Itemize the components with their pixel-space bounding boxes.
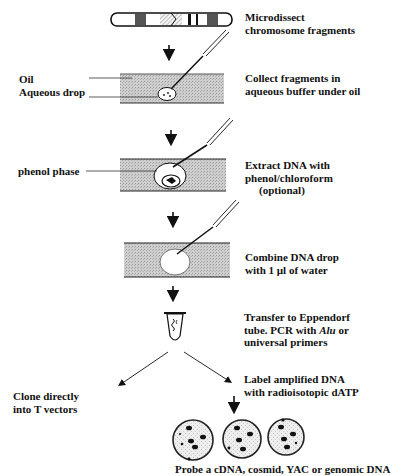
label-line: Combine DNA drop	[245, 251, 339, 264]
oil-label: Oil	[19, 73, 34, 86]
step-probe-label: Probe a cDNA, cosmid, YAC or genomic DNA	[175, 463, 390, 476]
label-line: universal primers	[244, 336, 350, 349]
step-label-label: Label amplified DNA with radioisotopic d…	[244, 373, 359, 398]
aqueous-drop-label: Aqueous drop	[19, 86, 85, 99]
oil-layer-icon	[89, 56, 224, 103]
label-line: Label amplified DNA	[244, 373, 359, 386]
step-collect-label: Collect fragments in aqueous buffer unde…	[245, 72, 360, 97]
label-line: (optional)	[245, 184, 333, 197]
eppendorf-tube-icon	[164, 313, 186, 340]
label-line: Microdissect	[245, 11, 355, 24]
step-combine-label: Combine DNA drop with 1 µl of water	[245, 251, 339, 276]
label-line: aqueous buffer under oil	[245, 85, 360, 98]
phenol-phase-label: phenol phase	[18, 165, 79, 178]
label-line: with 1 µl of water	[245, 264, 339, 277]
step-microdissect-label: Microdissect chromosome fragments	[245, 11, 355, 36]
label-line: Extract DNA with	[245, 159, 333, 172]
petri-plate-icon	[268, 418, 304, 455]
label-line: Collect fragments in	[245, 72, 360, 85]
step-extract-label: Extract DNA with phenol/chloroform (opti…	[245, 159, 333, 197]
step-clone-label: Clone directly into T vectors	[13, 390, 79, 415]
alu-italic-text: Alu	[319, 324, 336, 336]
label-text: or	[336, 324, 349, 336]
label-line: Transfer to Eppendorf	[244, 311, 350, 324]
label-line: into T vectors	[13, 403, 79, 416]
step-transfer-label: Transfer to Eppendorf tube. PCR with Alu…	[244, 311, 350, 349]
petri-plate-icon	[223, 420, 261, 458]
label-line: chromosome fragments	[245, 24, 355, 37]
label-text: tube. PCR with	[244, 324, 319, 336]
branch-arrows	[121, 352, 229, 384]
label-line: with radioisotopic dATP	[244, 386, 359, 399]
chromosome-icon	[111, 13, 232, 26]
pipette-icon	[203, 30, 239, 227]
oil-layer-icon	[124, 227, 230, 277]
label-line: phenol/chloroform	[245, 172, 333, 185]
diagram-canvas: Microdissect chromosome fragments Collec…	[0, 0, 403, 476]
label-line: Clone directly	[13, 390, 79, 403]
petri-plate-icon	[173, 420, 213, 460]
label-line: tube. PCR with Alu or	[244, 324, 350, 337]
oil-layer-icon	[86, 145, 226, 191]
